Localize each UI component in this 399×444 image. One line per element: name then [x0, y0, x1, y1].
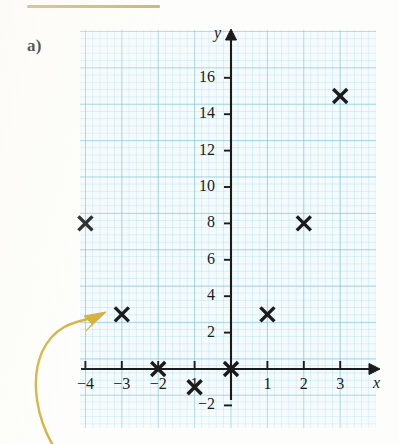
- figure-page: a) y x 161412108642−2 −4−3−21123: [0, 0, 399, 444]
- data-markers-group: [78, 89, 347, 394]
- y-axis-arrowhead: [226, 29, 237, 40]
- data-point-marker: [78, 216, 92, 230]
- x-tick-label: −4: [72, 375, 98, 393]
- axes-group: [81, 29, 380, 400]
- y-tick-label: −2: [181, 395, 215, 413]
- y-tick-label: 2: [181, 323, 215, 341]
- y-tick-label: 4: [181, 286, 215, 304]
- x-tick-label: −2: [145, 375, 171, 393]
- x-tick-label: 2: [291, 375, 317, 393]
- x-tick-label: 1: [254, 375, 280, 393]
- y-tick-label: 6: [181, 250, 215, 268]
- data-point-marker: [333, 89, 347, 103]
- y-tick-label: 10: [181, 177, 215, 195]
- y-axis-label: y: [214, 24, 221, 42]
- x-axis-label: x: [373, 374, 380, 392]
- data-point-marker: [260, 307, 274, 321]
- x-axis-arrowhead: [369, 364, 380, 375]
- x-tick-label: 3: [327, 375, 353, 393]
- y-tick-label: 8: [181, 213, 215, 231]
- x-tick-label: −3: [109, 375, 135, 393]
- x-tick-label: 1: [182, 375, 208, 393]
- tick-marks-group: [85, 78, 340, 406]
- y-tick-label: 16: [181, 68, 215, 86]
- y-tick-label: 14: [181, 104, 215, 122]
- data-point-marker: [297, 216, 311, 230]
- data-point-marker: [115, 307, 129, 321]
- y-tick-label: 12: [181, 141, 215, 159]
